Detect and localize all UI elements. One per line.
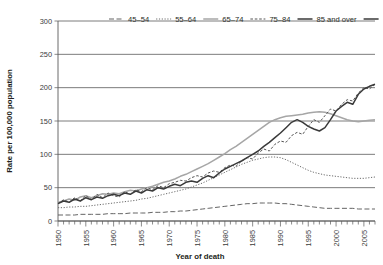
chart-container: 45–5455–6465–7475–8485 and over 05010015… [0, 0, 383, 265]
x-tick-label: 2005 [360, 230, 369, 246]
y-tick-label: 150 [40, 117, 52, 126]
series-line-75-84 [58, 84, 375, 203]
x-tick-label: 1960 [109, 230, 118, 246]
x-tick-label: 1975 [193, 230, 202, 246]
data-series-group [58, 84, 375, 215]
y-tick-label: 100 [40, 150, 52, 159]
x-tick-label: 2000 [332, 230, 341, 246]
x-tick-label: 1995 [304, 230, 313, 246]
chart-legend: 45–5455–6465–7475–8485 and over [109, 15, 379, 24]
y-tick-label: 300 [40, 17, 52, 26]
x-axis-title: Year of death [176, 252, 225, 261]
y-axis-title: Rate per 100,000 population [5, 69, 14, 173]
y-tick-label: 200 [40, 83, 52, 92]
y-axis: 050100150200250300 [40, 17, 58, 226]
x-tick-label: 1980 [221, 230, 230, 246]
legend-label-45-54: 45–54 [128, 15, 149, 24]
x-axis: 1950195519601965197019751980198519901995… [54, 221, 375, 246]
x-tick-label: 1965 [137, 230, 146, 246]
x-tick-label: 1950 [54, 230, 63, 246]
x-tick-label: 1955 [82, 230, 91, 246]
legend-label-55-64: 55–64 [175, 15, 196, 24]
x-tick-label: 1970 [165, 230, 174, 246]
gridlines [58, 21, 375, 221]
legend-label-75-84: 75–84 [269, 15, 290, 24]
y-tick-label: 0 [48, 217, 52, 226]
x-tick-label: 1990 [276, 230, 285, 246]
legend-label-85-and-over: 85 and over [317, 15, 358, 24]
line-chart: 45–5455–6465–7475–8485 and over 05010015… [0, 0, 383, 265]
y-tick-label: 50 [44, 183, 52, 192]
series-line-55-64 [58, 157, 375, 208]
series-line-85-and-over [58, 84, 375, 203]
series-line-45-54 [58, 203, 375, 215]
x-tick-label: 1985 [248, 230, 257, 246]
y-tick-label: 250 [40, 50, 52, 59]
legend-label-65-74: 65–74 [222, 15, 243, 24]
